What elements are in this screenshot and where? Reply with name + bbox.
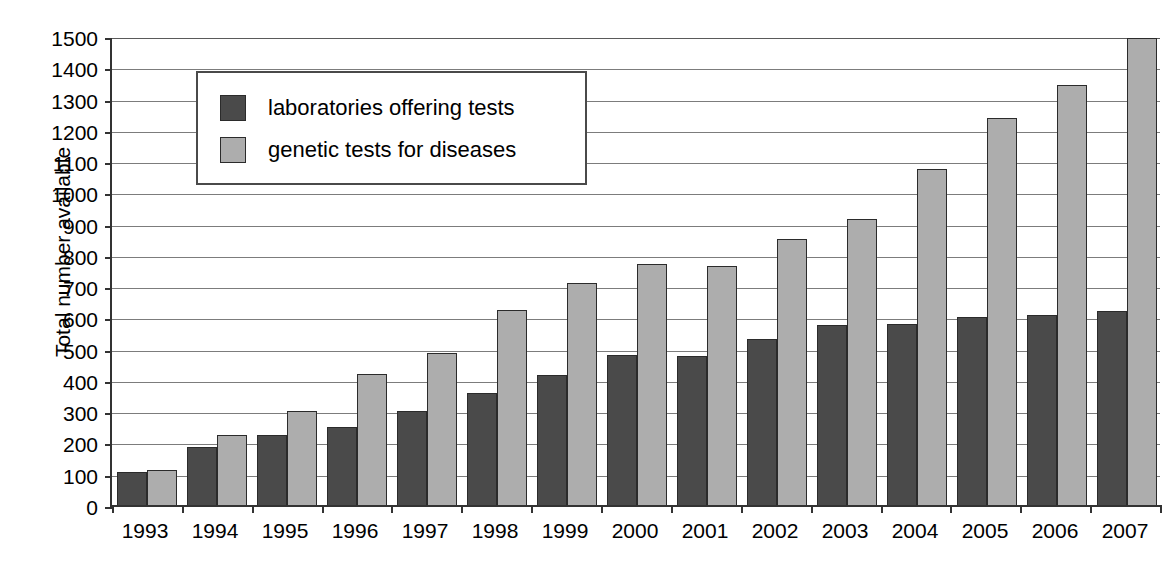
legend-label: genetic tests for diseases bbox=[268, 137, 516, 163]
bar bbox=[567, 283, 597, 505]
x-axis-tick-mark bbox=[391, 505, 393, 513]
y-axis-tick-label: 300 bbox=[26, 403, 98, 424]
x-axis-tick-label: 1994 bbox=[180, 519, 250, 553]
bar bbox=[117, 472, 147, 505]
x-axis-tick-mark bbox=[252, 505, 254, 513]
x-axis-tick-label: 2000 bbox=[600, 519, 670, 553]
x-axis-tick-mark bbox=[811, 505, 813, 513]
x-axis-tick-label: 2002 bbox=[740, 519, 810, 553]
legend-label: laboratories offering tests bbox=[268, 95, 515, 121]
y-axis-tick-labels: 1500140013001200110010009008007006005004… bbox=[26, 38, 98, 507]
bar bbox=[607, 355, 637, 505]
bar bbox=[707, 266, 737, 505]
bar bbox=[817, 325, 847, 505]
x-axis-tick-mark bbox=[741, 505, 743, 513]
y-axis-tick-label: 100 bbox=[26, 465, 98, 486]
y-axis-tick-mark bbox=[105, 288, 112, 290]
chart-figure: Total number available 15001400130012001… bbox=[0, 0, 1172, 567]
x-axis-tick-label: 1997 bbox=[390, 519, 460, 553]
y-axis-tick-mark bbox=[105, 132, 112, 134]
y-axis-tick-label: 900 bbox=[26, 215, 98, 236]
x-axis-tick-mark bbox=[671, 505, 673, 513]
bar-group bbox=[602, 38, 672, 505]
x-axis-tick-label: 1999 bbox=[530, 519, 600, 553]
x-axis-tick-mark bbox=[881, 505, 883, 513]
y-axis-tick-label: 1200 bbox=[26, 121, 98, 142]
bar bbox=[1057, 85, 1087, 505]
y-axis-tick-label: 1100 bbox=[26, 153, 98, 174]
x-axis-tick-label: 2007 bbox=[1090, 519, 1160, 553]
legend-item-genetic-tests-for-diseases: genetic tests for diseases bbox=[220, 129, 585, 171]
y-axis-tick-mark bbox=[105, 444, 112, 446]
x-axis-tick-label: 2004 bbox=[880, 519, 950, 553]
y-axis-tick-mark bbox=[105, 413, 112, 415]
bar bbox=[497, 310, 527, 505]
x-axis-tick-mark bbox=[461, 505, 463, 513]
bar-group bbox=[112, 38, 182, 505]
bar bbox=[397, 411, 427, 505]
x-axis-tick-label: 2001 bbox=[670, 519, 740, 553]
bar bbox=[357, 374, 387, 505]
y-axis-tick-mark bbox=[105, 476, 112, 478]
bar-group bbox=[742, 38, 812, 505]
x-axis-tick-mark bbox=[182, 505, 184, 513]
y-axis-tick-label: 1300 bbox=[26, 90, 98, 111]
bar-group bbox=[882, 38, 952, 505]
legend-swatch-icon-light bbox=[220, 137, 246, 163]
legend-item-laboratories-offering-tests: laboratories offering tests bbox=[220, 87, 585, 129]
x-axis-tick-label: 1995 bbox=[250, 519, 320, 553]
x-axis-tick-label: 2003 bbox=[810, 519, 880, 553]
bar bbox=[327, 427, 357, 505]
bar bbox=[1127, 38, 1157, 505]
bar bbox=[777, 239, 807, 505]
y-axis-tick-mark bbox=[105, 319, 112, 321]
bar bbox=[1097, 311, 1127, 505]
bar bbox=[187, 447, 217, 505]
y-axis-tick-mark bbox=[105, 101, 112, 103]
x-axis-tick-label: 2006 bbox=[1020, 519, 1090, 553]
y-axis-tick-mark bbox=[105, 38, 112, 40]
x-axis-tick-mark bbox=[112, 505, 114, 513]
x-axis-tick-marks bbox=[112, 505, 1160, 513]
x-axis-tick-label: 1998 bbox=[460, 519, 530, 553]
y-axis-tick-marks bbox=[105, 38, 112, 505]
x-axis-tick-mark bbox=[1020, 505, 1022, 513]
x-axis-tick-mark bbox=[1160, 505, 1162, 513]
x-axis-tick-mark bbox=[950, 505, 952, 513]
y-axis-tick-label: 200 bbox=[26, 434, 98, 455]
bar bbox=[467, 393, 497, 505]
bar bbox=[217, 435, 247, 505]
y-axis-tick-mark bbox=[105, 351, 112, 353]
y-axis-tick-label: 600 bbox=[26, 309, 98, 330]
bar bbox=[987, 118, 1017, 505]
bar-group bbox=[952, 38, 1022, 505]
bar bbox=[747, 339, 777, 505]
bar bbox=[257, 435, 287, 505]
x-axis-tick-label: 1996 bbox=[320, 519, 390, 553]
y-axis-tick-label: 800 bbox=[26, 246, 98, 267]
y-axis-tick-mark bbox=[105, 257, 112, 259]
bar-group bbox=[672, 38, 742, 505]
y-axis-tick-mark bbox=[105, 194, 112, 196]
bar-group bbox=[1022, 38, 1092, 505]
y-axis-tick-label: 1400 bbox=[26, 59, 98, 80]
y-axis-tick-label: 500 bbox=[26, 340, 98, 361]
y-axis-tick-mark bbox=[105, 382, 112, 384]
x-axis-tick-labels: 1993199419951996199719981999200020012002… bbox=[110, 519, 1160, 553]
bar bbox=[887, 324, 917, 505]
x-axis-tick-label: 2005 bbox=[950, 519, 1020, 553]
x-axis-tick-mark bbox=[531, 505, 533, 513]
bar bbox=[957, 317, 987, 505]
bar bbox=[637, 264, 667, 505]
x-axis-tick-mark bbox=[1090, 505, 1092, 513]
legend-swatch-icon-dark bbox=[220, 95, 246, 121]
bar bbox=[537, 375, 567, 505]
x-axis-tick-mark bbox=[601, 505, 603, 513]
y-axis-tick-label: 400 bbox=[26, 371, 98, 392]
bar bbox=[677, 356, 707, 505]
bar bbox=[1027, 315, 1057, 505]
y-axis-tick-mark bbox=[105, 507, 112, 509]
x-axis-tick-mark bbox=[322, 505, 324, 513]
y-axis-tick-label: 1000 bbox=[26, 184, 98, 205]
x-axis-tick-label: 1993 bbox=[110, 519, 180, 553]
